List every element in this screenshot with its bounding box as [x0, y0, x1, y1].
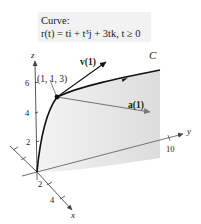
z-tick-label-2: 2 — [26, 137, 30, 147]
y-axis-back — [22, 172, 37, 176]
acceleration-label: a(1) — [128, 100, 144, 111]
z-tick-label-6: 6 — [25, 78, 29, 88]
curve-caption-box: Curve: r(t) = ti + t³j + 3tk, t ≥ 0 — [38, 12, 151, 42]
x-tick-label-4: 4 — [50, 195, 55, 205]
caption-formula: r(t) = ti + t³j + 3tk, t ≥ 0 — [41, 28, 141, 40]
y-axis-label: y — [186, 126, 191, 136]
point-marker — [55, 95, 60, 100]
x-axis-back — [10, 146, 37, 172]
x-axis-label: x — [70, 210, 75, 220]
z-tick-4 — [35, 112, 38, 113]
x-axis — [37, 172, 72, 210]
point-label: (1, 1, 3) — [37, 74, 67, 85]
caption-title: Curve: — [41, 15, 70, 27]
curve-label: C — [149, 49, 157, 61]
z-tick-label-4: 4 — [25, 108, 30, 118]
shaded-surface — [37, 70, 160, 172]
x-tick-back — [13, 147, 18, 150]
x-tick-label-2: 2 — [38, 179, 42, 189]
z-axis-label: z — [30, 50, 35, 60]
velocity-label: v(1) — [80, 57, 96, 68]
y-tick-label-10: 10 — [166, 144, 175, 154]
